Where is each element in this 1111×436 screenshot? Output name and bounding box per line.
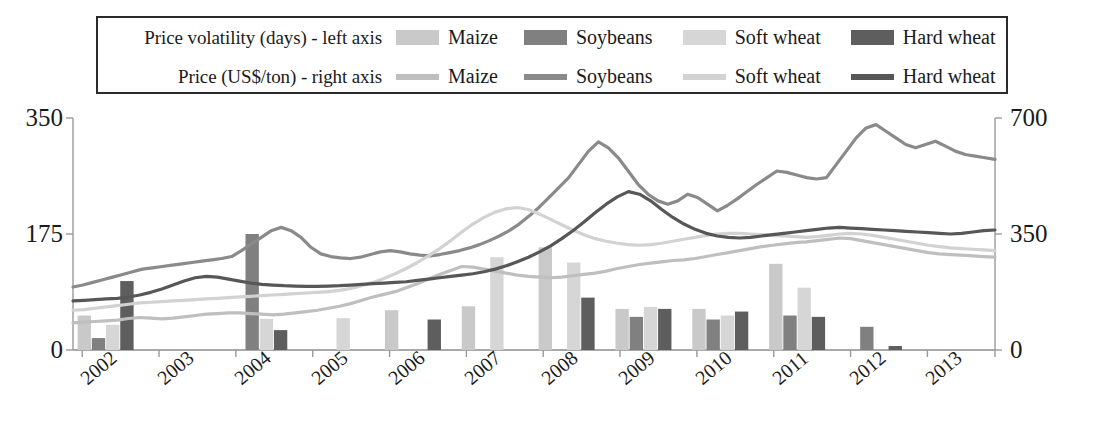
bar-maize-2010 <box>692 309 705 350</box>
legend-row-price: Price (US$/ton) - right axis Maize Soybe… <box>98 57 1006 96</box>
bar-soft-wheat-2010 <box>721 316 734 350</box>
bar-soybeans-2004 <box>245 234 258 350</box>
legend-label-bar-soybeans: Soybeans <box>567 26 657 49</box>
bar-soft-wheat-2002 <box>106 325 119 350</box>
line-hard-wheat <box>73 192 995 301</box>
bar-soft-wheat-2011 <box>798 288 811 350</box>
legend-swatch-line-soft-wheat <box>683 74 726 80</box>
price-volatility-chart: Price volatility (days) - left axis Maiz… <box>0 0 1111 436</box>
y-axis-right: 700 350 0 <box>998 100 1108 360</box>
legend-swatch-bar-soft-wheat <box>683 30 726 45</box>
bar-hard-wheat-2012 <box>889 346 902 350</box>
legend-label-line-soft-wheat: Soft wheat <box>726 65 825 88</box>
legend-row-price-title: Price (US$/ton) - right axis <box>106 66 390 88</box>
bar-hard-wheat-2008 <box>581 298 594 350</box>
legend-item-line-maize: Maize <box>396 65 502 88</box>
plot-area: 350 175 0 700 350 0 20022003200420052006… <box>0 100 1111 436</box>
bar-hard-wheat-2010 <box>735 312 748 350</box>
legend-label-bar-maize: Maize <box>439 26 502 49</box>
legend-item-line-soybeans: Soybeans <box>524 65 657 88</box>
legend-label-line-hard-wheat: Hard wheat <box>894 65 1000 88</box>
legend-item-line-soft-wheat: Soft wheat <box>683 65 825 88</box>
legend-row-volatility: Price volatility (days) - left axis Maiz… <box>98 18 1006 57</box>
x-axis-labels: 2002200320042005200620072008200920102011… <box>0 358 1111 436</box>
legend-item-bar-maize: Maize <box>396 26 502 49</box>
bar-maize-2009 <box>615 309 628 350</box>
y-axis-right-tick-700: 700 <box>1010 104 1048 132</box>
bar-soft-wheat-2005 <box>337 318 350 350</box>
legend-label-bar-soft-wheat: Soft wheat <box>726 26 825 49</box>
bar-hard-wheat-2006 <box>428 320 441 350</box>
legend-swatch-line-hard-wheat <box>851 74 894 80</box>
legend-item-bar-soft-wheat: Soft wheat <box>683 26 825 49</box>
legend-item-bar-soybeans: Soybeans <box>524 26 657 49</box>
line-soybeans <box>73 125 995 287</box>
legend-label-bar-hard-wheat: Hard wheat <box>894 26 1000 49</box>
bar-soybeans-2010 <box>706 320 719 350</box>
legend-swatch-line-soybeans <box>524 74 567 80</box>
legend-label-line-maize: Maize <box>439 65 502 88</box>
bar-hard-wheat-2002 <box>120 281 133 350</box>
legend-swatch-line-maize <box>396 74 439 80</box>
legend-label-line-soybeans: Soybeans <box>567 65 657 88</box>
bar-maize-2007 <box>462 306 475 350</box>
legend-row-volatility-title: Price volatility (days) - left axis <box>106 27 390 49</box>
bar-soybeans-2009 <box>630 317 643 350</box>
bar-soft-wheat-2009 <box>644 307 657 350</box>
bar-hard-wheat-2004 <box>274 330 287 350</box>
bar-soybeans-2012 <box>860 327 873 350</box>
bar-hard-wheat-2011 <box>812 317 825 350</box>
bar-soft-wheat-2004 <box>260 319 273 350</box>
y-axis-left: 350 175 0 <box>0 100 73 360</box>
line-maize <box>73 238 995 323</box>
plot-canvas <box>0 100 1111 360</box>
legend-item-line-hard-wheat: Hard wheat <box>851 65 1000 88</box>
legend-swatch-bar-maize <box>396 30 439 45</box>
bar-maize-2006 <box>385 310 398 350</box>
y-axis-left-tick-175: 175 <box>26 220 64 248</box>
legend-item-bar-hard-wheat: Hard wheat <box>851 26 1000 49</box>
y-axis-right-tick-350: 350 <box>1010 220 1048 248</box>
bar-soybeans-2011 <box>783 316 796 350</box>
bar-maize-2011 <box>769 264 782 350</box>
bar-hard-wheat-2009 <box>658 309 671 350</box>
y-axis-left-tick-350: 350 <box>26 104 64 132</box>
bar-maize-2008 <box>539 247 552 350</box>
chart-legend: Price volatility (days) - left axis Maiz… <box>96 16 1008 94</box>
legend-swatch-bar-hard-wheat <box>851 30 894 45</box>
legend-swatch-bar-soybeans <box>524 30 567 45</box>
